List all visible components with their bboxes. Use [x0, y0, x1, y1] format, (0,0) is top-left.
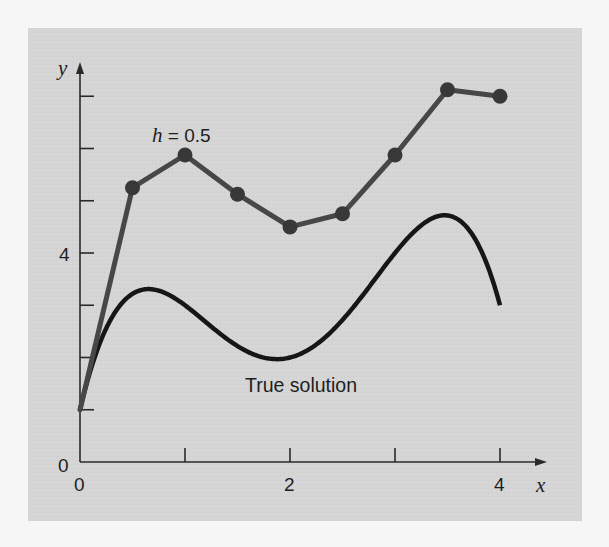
euler-marker-icon — [230, 187, 245, 202]
h-value: = 0.5 — [163, 125, 211, 146]
y-tick-label-4: 4 — [59, 244, 70, 265]
euler-marker-icon — [335, 206, 350, 221]
h-variable: h — [152, 123, 163, 147]
x-tick-label-0: 0 — [74, 474, 85, 495]
y-tick-label-0: 0 — [58, 455, 69, 476]
series-label-h05: h = 0.5 — [152, 123, 211, 147]
chart-figure: y x 0 4 0 2 4 h = 0.5 True solution — [0, 0, 609, 547]
y-axis-label: y — [56, 56, 68, 80]
chart-canvas: y x 0 4 0 2 4 h = 0.5 True solution — [0, 0, 609, 547]
series-label-true-solution: True solution — [245, 374, 357, 396]
euler-marker-icon — [493, 89, 508, 104]
x-axis-label: x — [535, 473, 546, 497]
euler-marker-icon — [178, 148, 193, 163]
euler-marker-icon — [283, 219, 298, 234]
euler-marker-icon — [440, 82, 455, 97]
euler-marker-icon — [388, 148, 403, 163]
x-tick-label-4: 4 — [494, 474, 505, 495]
x-tick-label-2: 2 — [284, 474, 295, 495]
euler-marker-icon — [125, 180, 140, 195]
